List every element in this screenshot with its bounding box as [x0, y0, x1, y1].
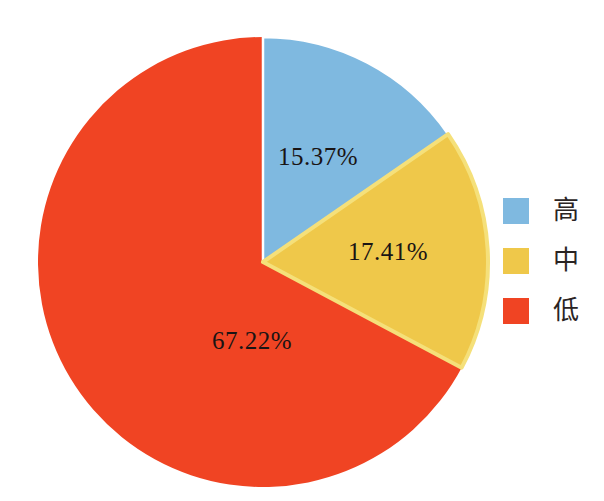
- legend-item-low[interactable]: 低: [503, 286, 598, 336]
- legend-swatch-low-icon: [503, 298, 529, 324]
- legend-label-mid: 中: [553, 248, 579, 274]
- legend-label-high: 高: [553, 198, 579, 224]
- chart-legend: 高 中 低: [503, 186, 598, 336]
- legend-item-mid[interactable]: 中: [503, 236, 598, 286]
- legend-swatch-high-icon: [503, 198, 529, 224]
- pie-chart: 15.37% 17.41% 67.22% 高 中 低: [0, 0, 604, 501]
- legend-item-high[interactable]: 高: [503, 186, 598, 236]
- slice-label-mid: 17.41%: [348, 238, 428, 266]
- legend-label-low: 低: [553, 298, 579, 324]
- slice-label-high: 15.37%: [278, 143, 358, 171]
- legend-swatch-mid-icon: [503, 248, 529, 274]
- slice-label-low: 67.22%: [212, 327, 292, 355]
